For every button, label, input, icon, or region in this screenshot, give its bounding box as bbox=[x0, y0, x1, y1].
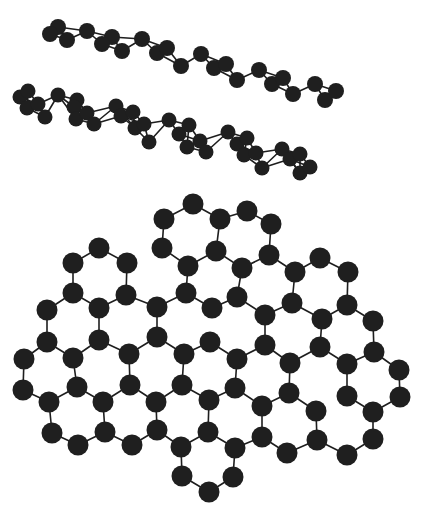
bonds bbox=[20, 91, 310, 173]
carbon-atom bbox=[275, 70, 291, 86]
carbon-atom bbox=[307, 76, 323, 92]
carbon-atom bbox=[180, 140, 195, 155]
carbon-atom bbox=[171, 437, 192, 458]
carbon-atom bbox=[173, 58, 189, 74]
carbon-atom bbox=[51, 88, 66, 103]
carbon-atom bbox=[183, 194, 204, 215]
carbon-atom bbox=[93, 392, 114, 413]
carbon-atom bbox=[137, 117, 152, 132]
carbon-atom bbox=[282, 293, 303, 314]
atoms bbox=[13, 194, 411, 503]
carbon-atom bbox=[249, 146, 264, 161]
carbon-atom bbox=[251, 62, 267, 78]
carbon-atom bbox=[134, 31, 150, 47]
atoms bbox=[13, 84, 318, 181]
carbon-atom bbox=[310, 248, 331, 269]
carbon-atom bbox=[142, 135, 157, 150]
carbon-atom bbox=[389, 360, 410, 381]
carbon-atom bbox=[261, 214, 282, 235]
carbon-atom bbox=[310, 337, 331, 358]
carbon-atom bbox=[199, 390, 220, 411]
carbon-atom bbox=[114, 43, 130, 59]
carbon-atom bbox=[337, 295, 358, 316]
carbon-atom bbox=[13, 380, 34, 401]
carbon-atom bbox=[252, 396, 273, 417]
carbon-atom bbox=[159, 40, 175, 56]
carbon-atom bbox=[59, 32, 75, 48]
carbon-atom bbox=[328, 83, 344, 99]
carbon-atom bbox=[225, 378, 246, 399]
carbon-atom bbox=[312, 309, 333, 330]
carbon-atom bbox=[198, 422, 219, 443]
carbon-atom bbox=[120, 375, 141, 396]
carbon-atom bbox=[285, 86, 301, 102]
carbon-atom bbox=[95, 422, 116, 443]
carbon-atom bbox=[176, 283, 197, 304]
carbon-atom bbox=[277, 443, 298, 464]
carbon-atom bbox=[94, 36, 110, 52]
carbon-atom bbox=[200, 332, 221, 353]
carbon-atom bbox=[337, 445, 358, 466]
carbon-atom bbox=[37, 300, 58, 321]
carbon-atom bbox=[68, 435, 89, 456]
carbon-atom bbox=[172, 375, 193, 396]
carbon-atom bbox=[119, 344, 140, 365]
carbon-atom bbox=[206, 241, 227, 262]
carbon-atom bbox=[337, 354, 358, 375]
carbon-atom bbox=[229, 72, 245, 88]
graphene-illustration bbox=[0, 0, 426, 516]
carbon-atom bbox=[67, 377, 88, 398]
carbon-atom bbox=[116, 285, 137, 306]
carbon-atom bbox=[225, 438, 246, 459]
carbon-atom bbox=[255, 305, 276, 326]
carbon-atom bbox=[237, 201, 258, 222]
carbon-atom bbox=[363, 311, 384, 332]
carbon-atom bbox=[363, 402, 384, 423]
carbon-atom bbox=[221, 125, 236, 140]
carbon-atom bbox=[126, 105, 141, 120]
carbon-atom bbox=[178, 256, 199, 277]
carbon-atom bbox=[390, 387, 411, 408]
carbon-atom bbox=[182, 118, 197, 133]
carbon-atom bbox=[259, 245, 280, 266]
carbon-atom bbox=[364, 342, 385, 363]
molecular-diagram-canvas bbox=[0, 0, 426, 516]
carbon-atom bbox=[280, 353, 301, 374]
carbon-atom bbox=[307, 430, 328, 451]
carbon-atom bbox=[87, 117, 102, 132]
carbon-atom bbox=[174, 344, 195, 365]
carbon-atom bbox=[285, 262, 306, 283]
carbon-atom bbox=[227, 287, 248, 308]
flat-graphene-sheet bbox=[13, 194, 411, 503]
carbon-atom bbox=[172, 466, 193, 487]
carbon-atom bbox=[279, 383, 300, 404]
carbon-atom bbox=[39, 392, 60, 413]
carbon-atom bbox=[154, 209, 175, 230]
stacked-sheet-upper bbox=[42, 19, 344, 108]
carbon-atom bbox=[255, 161, 270, 176]
carbon-atom bbox=[240, 131, 255, 146]
carbon-atom bbox=[42, 423, 63, 444]
carbon-atom bbox=[255, 335, 276, 356]
carbon-atom bbox=[227, 349, 248, 370]
carbon-atom bbox=[37, 332, 58, 353]
carbon-atom bbox=[89, 330, 110, 351]
carbon-atom bbox=[218, 56, 234, 72]
carbon-atom bbox=[42, 26, 58, 42]
carbon-atom bbox=[147, 327, 168, 348]
carbon-atom bbox=[202, 298, 223, 319]
carbon-atom bbox=[223, 467, 244, 488]
carbon-atom bbox=[89, 298, 110, 319]
carbon-atom bbox=[31, 97, 46, 112]
carbon-atom bbox=[21, 84, 36, 99]
carbon-atom bbox=[79, 23, 95, 39]
carbon-atom bbox=[210, 209, 231, 230]
carbon-atom bbox=[252, 427, 273, 448]
carbon-atom bbox=[146, 392, 167, 413]
carbon-atom bbox=[303, 160, 318, 175]
carbon-atom bbox=[122, 435, 143, 456]
carbon-atom bbox=[162, 113, 177, 128]
carbon-atom bbox=[38, 110, 53, 125]
carbon-atom bbox=[232, 258, 253, 279]
carbon-atom bbox=[63, 348, 84, 369]
